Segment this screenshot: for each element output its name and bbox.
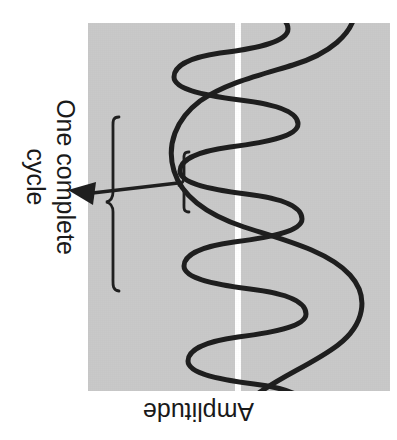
caption-line-2: cycle: [21, 82, 51, 272]
caption-line-1: One complete: [51, 82, 81, 272]
wave-plot-panel: [88, 23, 390, 391]
one-complete-cycle-caption: One complete cycle: [21, 82, 81, 272]
amplitude-axis-label: Amplitude: [0, 395, 397, 429]
wave-curves-svg: [88, 23, 390, 391]
wave-amplitude-figure: One complete cycle Amplitude: [0, 0, 397, 440]
low-frequency-wave: [171, 23, 362, 391]
